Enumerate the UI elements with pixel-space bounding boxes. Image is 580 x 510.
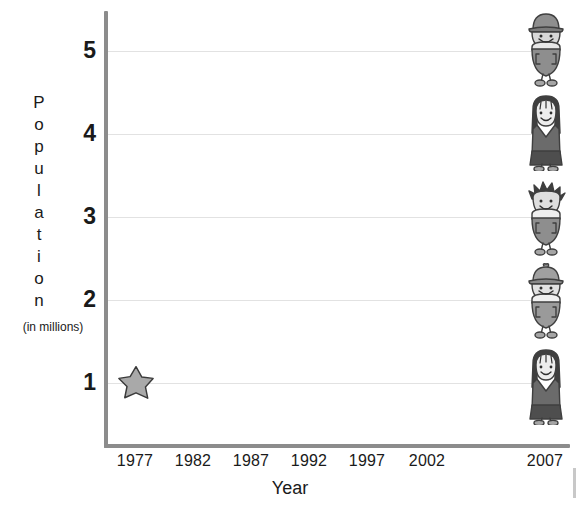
y-axis-title-letter: P	[22, 92, 56, 114]
x-tick-label-2007: 2007	[510, 452, 580, 470]
x-axis-line	[104, 444, 570, 448]
y-axis-title-letter: u	[22, 158, 56, 180]
y-axis-title-letter: n	[22, 290, 56, 312]
x-axis-title: Year	[0, 478, 580, 499]
y-axis-title-letter: o	[22, 268, 56, 290]
person-spiky-hair-icon	[519, 179, 573, 257]
y-axis-title-letter: a	[22, 202, 56, 224]
gridline-4	[108, 134, 532, 135]
y-axis-units-label: (in millions)	[4, 320, 102, 334]
gridline-3	[108, 217, 532, 218]
x-tick-label-2002: 2002	[392, 452, 462, 470]
woman-long-hair-icon	[519, 93, 573, 171]
gridline-5	[108, 51, 532, 52]
y-axis-title-letter: t	[22, 224, 56, 246]
y-tick-5: 5	[48, 39, 96, 63]
y-tick-label-4: 4	[68, 122, 96, 145]
gridline-2	[108, 300, 532, 301]
y-axis-title-letter: i	[22, 246, 56, 268]
y-tick-1: 1	[48, 371, 96, 395]
y-tick-label-2: 2	[68, 288, 96, 311]
y-axis-title-letter: p	[22, 136, 56, 158]
gridline-1	[108, 383, 532, 384]
y-tick-label-3: 3	[68, 205, 96, 228]
population-chart: 5 4 3 2 1 P o p u l a t i o n (in millio…	[0, 0, 580, 510]
y-axis-title-letter: o	[22, 114, 56, 136]
woman-long-hair-icon	[519, 347, 573, 425]
y-axis-title: P o p u l a t i o n	[22, 92, 56, 312]
person-hat-icon	[519, 10, 573, 88]
y-tick-label-1: 1	[68, 371, 96, 394]
y-tick-label-5: 5	[68, 39, 96, 62]
y-axis-line	[104, 11, 108, 448]
star-data-point-marker	[118, 364, 154, 400]
page-edge-mark	[573, 468, 576, 498]
person-cap-icon	[519, 262, 573, 340]
y-axis-title-letter: l	[22, 180, 56, 202]
